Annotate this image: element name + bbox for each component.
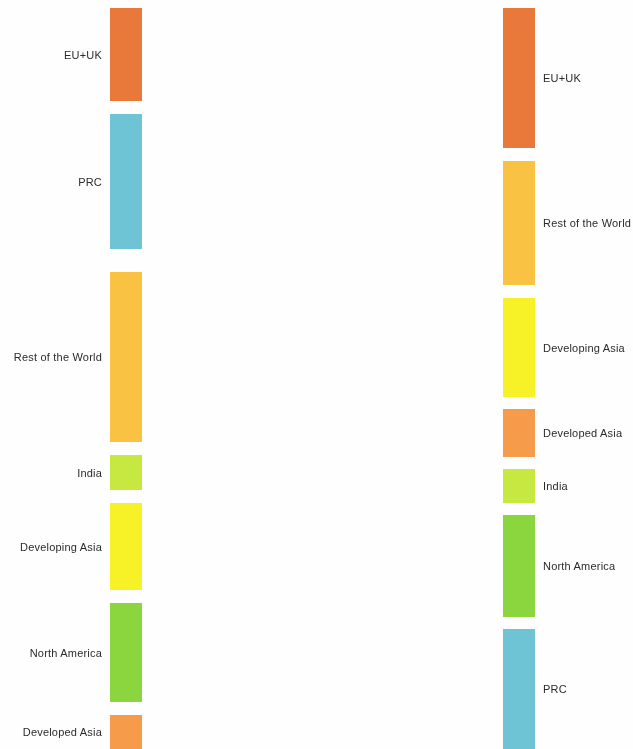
flow-link[interactable] [142, 395, 503, 483]
flow-link[interactable] [142, 495, 503, 570]
flow-link[interactable] [142, 94, 503, 636]
flow-link[interactable] [142, 280, 503, 725]
node-right-india[interactable] [503, 469, 535, 503]
node-right-developing_asia[interactable] [503, 298, 535, 397]
node-label-left-rest_of_the_world: Rest of the World [14, 351, 102, 363]
flow-link[interactable] [142, 142, 503, 721]
flow-link[interactable] [142, 444, 503, 740]
node-label-left-prc: PRC [78, 176, 102, 188]
node-left-developing_asia[interactable] [110, 503, 142, 590]
sankey-canvas: EU+UKPRCRest of the WorldIndiaDeveloping… [0, 0, 633, 749]
flow-link[interactable] [142, 71, 503, 310]
node-left-rest_of_the_world[interactable] [110, 272, 142, 442]
node-label-right-north_america: North America [543, 560, 616, 572]
node-label-left-developing_asia: Developing Asia [20, 541, 103, 553]
node-label-left-eu_uk: EU+UK [64, 49, 102, 61]
flow-link[interactable] [142, 570, 503, 586]
flow-link[interactable] [142, 488, 503, 718]
node-label-right-rest_of_the_world: Rest of the World [543, 217, 631, 229]
node-label-right-india: India [543, 480, 569, 492]
flow-link[interactable] [142, 424, 503, 716]
flow-link[interactable] [142, 614, 503, 744]
flow-link[interactable] [142, 501, 503, 742]
flow-link[interactable] [142, 60, 503, 173]
flow-link[interactable] [142, 483, 503, 575]
node-label-right-eu_uk: EU+UK [543, 72, 581, 84]
node-label-left-developed_asia: Developed Asia [23, 726, 103, 738]
flow-link[interactable] [142, 252, 503, 528]
flow-link[interactable] [142, 430, 503, 472]
flow-link[interactable] [142, 78, 503, 413]
flow-link[interactable] [142, 438, 503, 658]
flow-link[interactable] [142, 472, 503, 495]
flow-link[interactable] [142, 105, 503, 462]
node-right-prc[interactable] [503, 629, 535, 749]
flow-link[interactable] [142, 84, 503, 525]
flow-link[interactable] [142, 134, 503, 187]
node-label-right-prc: PRC [543, 683, 567, 695]
flow-link[interactable] [142, 316, 503, 385]
flow-link[interactable] [142, 8, 503, 60]
node-label-right-developing_asia: Developing Asia [543, 342, 626, 354]
flow-link[interactable] [142, 54, 503, 134]
flow-link[interactable] [142, 402, 503, 570]
flow-link[interactable] [142, 157, 503, 420]
node-right-developed_asia[interactable] [503, 409, 535, 457]
flow-link[interactable] [142, 688, 503, 743]
flow-link[interactable] [142, 385, 503, 430]
node-right-eu_uk[interactable] [503, 8, 535, 148]
flow-link[interactable] [142, 73, 503, 305]
flow-link[interactable] [142, 264, 503, 642]
node-left-north_america[interactable] [110, 603, 142, 702]
node-label-left-india: India [77, 467, 103, 479]
flow-link[interactable] [142, 392, 503, 729]
flow-link[interactable] [142, 337, 503, 560]
node-labels-layer: EU+UKPRCRest of the WorldIndiaDeveloping… [14, 49, 631, 739]
flow-link[interactable] [142, 581, 503, 728]
flow-link[interactable] [142, 498, 503, 660]
flow-link[interactable] [142, 111, 503, 516]
node-left-prc[interactable] [110, 114, 142, 249]
sankey-diagram: EU+UKPRCRest of the WorldIndiaDeveloping… [0, 0, 633, 749]
flow-link[interactable] [142, 164, 503, 475]
flow-link[interactable] [142, 148, 503, 316]
flow-link[interactable] [142, 82, 503, 471]
node-label-right-developed_asia: Developed Asia [543, 427, 623, 439]
flow-link[interactable] [142, 431, 503, 567]
flow-link[interactable] [142, 187, 503, 372]
flow-link[interactable] [142, 333, 503, 471]
node-left-developed_asia[interactable] [110, 715, 142, 749]
node-right-rest_of_the_world[interactable] [503, 161, 535, 285]
node-left-india[interactable] [110, 455, 142, 490]
nodes-layer [110, 8, 535, 749]
flow-link[interactable] [142, 122, 503, 625]
flow-link[interactable] [142, 247, 503, 468]
node-right-north_america[interactable] [503, 515, 535, 617]
node-label-left-north_america: North America [30, 647, 103, 659]
flow-link[interactable] [142, 743, 503, 749]
flow-link[interactable] [142, 167, 503, 549]
flow-link[interactable] [142, 586, 503, 688]
flow-links-layer [142, 8, 503, 749]
flow-link[interactable] [142, 379, 503, 652]
node-left-eu_uk[interactable] [110, 8, 142, 101]
flow-link[interactable] [142, 191, 503, 697]
